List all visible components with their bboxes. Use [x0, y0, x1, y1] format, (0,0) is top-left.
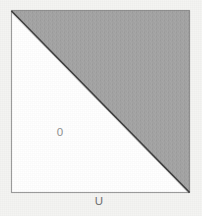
- axis-label-u: U: [90, 196, 108, 208]
- figure-canvas: 0 U: [0, 0, 202, 216]
- region-label-zero: 0: [53, 127, 67, 139]
- diagram-svg: [0, 0, 202, 216]
- geometric-diagram: 0 U: [0, 0, 202, 216]
